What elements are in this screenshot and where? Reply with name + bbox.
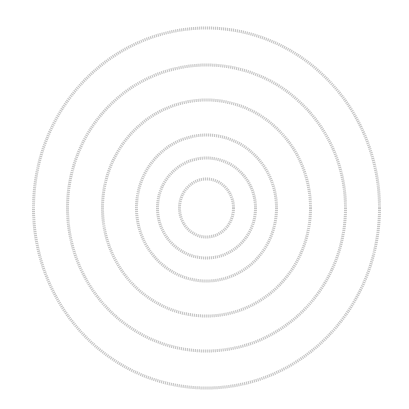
- ring-6: [180, 179, 234, 237]
- ring-1: [34, 28, 380, 388]
- ring-2: [68, 65, 346, 351]
- ring-3: [103, 100, 311, 316]
- canvas: [0, 0, 409, 409]
- concentric-rings: [0, 0, 409, 409]
- ring-5: [158, 158, 256, 258]
